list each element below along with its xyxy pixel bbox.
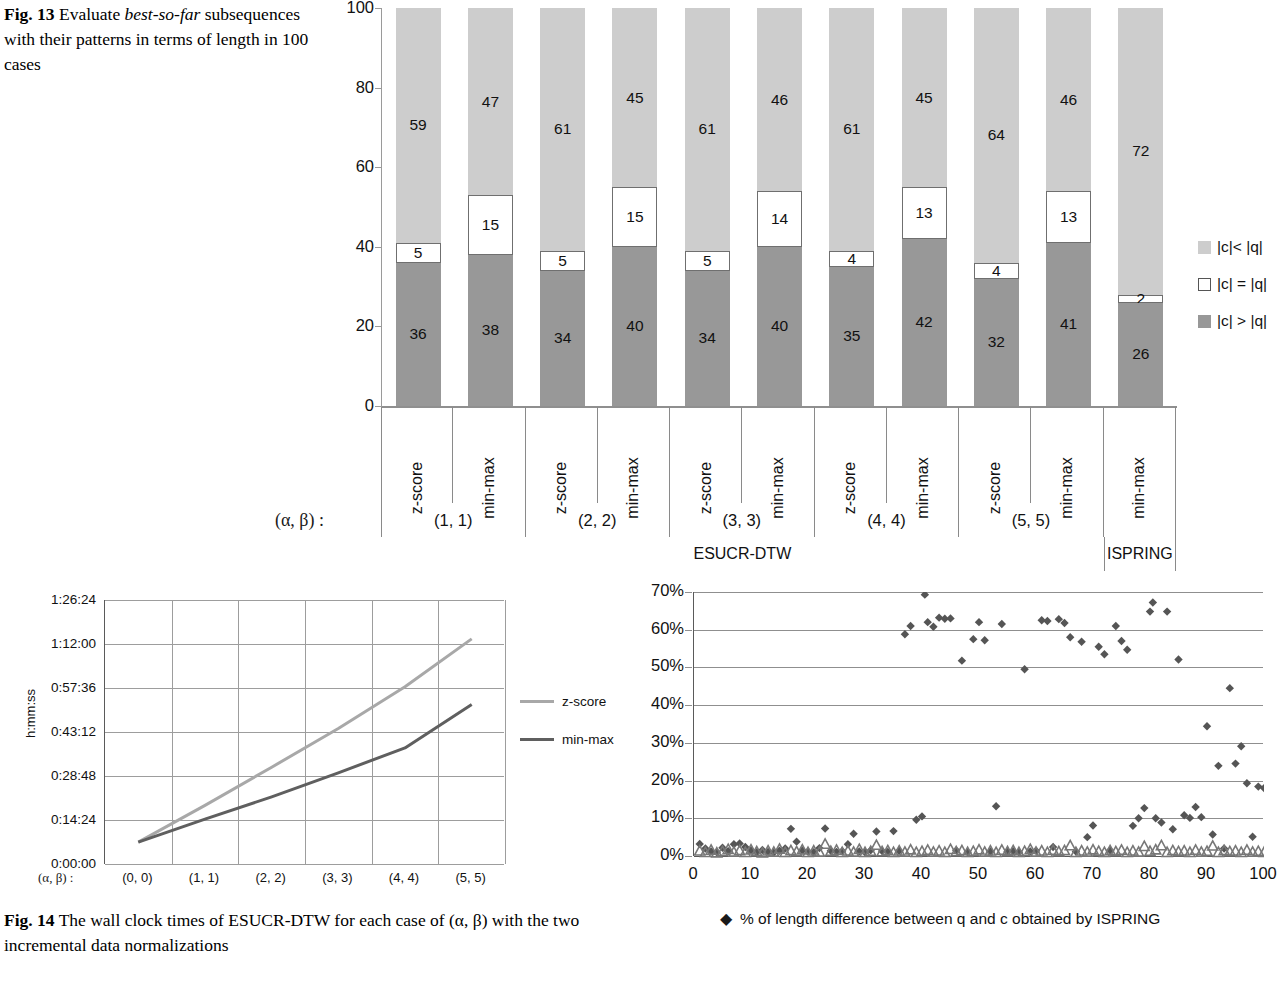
scatter-y-tick-mark <box>685 592 692 593</box>
scatter-point-diamond <box>1095 642 1103 650</box>
fig13-stacked-bar-chart: 020406080100 595364715386153445154061534… <box>330 0 1210 575</box>
stacked-bar[interactable]: 59536 <box>396 8 441 406</box>
line-series-min-max <box>138 705 471 843</box>
bar-segment-c-lt-q: 45 <box>612 8 657 187</box>
scatter-point-diamond <box>1043 617 1051 625</box>
bar-y-tick-label: 40 <box>330 240 374 252</box>
fig14-caption-text: The wall clock times of ESUCR-DTW for ea… <box>4 910 579 955</box>
bar-category-cell: min-max <box>598 407 670 503</box>
bar-group-cell: (2, 2) <box>526 503 671 537</box>
scatter-y-tick-mark <box>685 630 692 631</box>
bar-segment-c-lt-q: 61 <box>829 8 874 251</box>
bar-segment-c-gt-q: 26 <box>1118 303 1163 406</box>
scatter-y-tick-mark <box>685 856 692 857</box>
bar-category-cell: min-max <box>1031 407 1103 503</box>
stacked-bar[interactable]: 471538 <box>468 8 513 406</box>
line-legend-item-z-score[interactable]: z-score <box>520 694 630 709</box>
scatter-point-diamond <box>1203 722 1211 730</box>
bar-segment-value: 38 <box>468 321 513 339</box>
scatter-point-diamond <box>975 618 983 626</box>
bar-segment-c-gt-q: 40 <box>612 247 657 406</box>
stacked-bar[interactable]: 461440 <box>757 8 802 406</box>
bar-segment-value: 61 <box>829 120 874 138</box>
legend-item-c-gt-q[interactable]: |c| > |q| <box>1198 312 1280 330</box>
stacked-bar[interactable]: 61534 <box>540 8 585 406</box>
scatter-x-tick-label: 40 <box>896 864 946 883</box>
line-chart-y-tick-label: 0:00:00 <box>0 859 96 869</box>
line-chart-gridline <box>105 864 504 865</box>
scatter-point-diamond <box>1077 638 1085 646</box>
line-chart-x-tick-label: (3, 3) <box>307 870 367 885</box>
bar-group-row: (1, 1)(2, 2)(3, 3)(4, 4)(5, 5) <box>381 503 1177 537</box>
stacked-bar[interactable]: 64432 <box>974 8 1019 406</box>
scatter-point-diamond <box>1243 779 1251 787</box>
legend-line-icon <box>520 700 554 703</box>
bar-segment-c-lt-q: 46 <box>1046 8 1091 191</box>
bar-segment-value: 72 <box>1118 142 1163 160</box>
bar-method-ispring: ISPRING <box>1104 537 1176 571</box>
scatter-x-tick-label: 30 <box>839 864 889 883</box>
legend-item-label: |c| = |q| <box>1217 275 1267 293</box>
scatter-point-diamond <box>1214 762 1222 770</box>
bar-segment-value: 5 <box>541 252 584 270</box>
line-chart-gridline-v <box>505 600 506 864</box>
stacked-bar[interactable]: 61435 <box>829 8 874 406</box>
scatter-point-diamond <box>981 636 989 644</box>
scatter-x-tick-label: 20 <box>782 864 832 883</box>
bar-segment-c-eq-q: 15 <box>612 187 657 247</box>
scatter-y-tick-label: 50% <box>620 659 684 671</box>
bar-category-cell: min-max <box>887 407 959 503</box>
scatter-y-tick-mark <box>685 705 692 706</box>
stacked-bar[interactable]: 451342 <box>902 8 947 406</box>
scatter-point-diamond <box>1146 607 1154 615</box>
fig13-legend: |c|< |q||c| = |q||c| > |q| <box>1198 238 1280 349</box>
scatter-point-diamond <box>1117 637 1125 645</box>
bar-plot-area: 5953647153861534451540615344614406143545… <box>382 8 1177 406</box>
line-plot-area <box>104 600 504 864</box>
bar-segment-c-eq-q: 15 <box>468 195 513 255</box>
scatter-y-tick-mark <box>685 781 692 782</box>
fig13-caption-italic: best-so-far <box>125 4 201 24</box>
bar-segment-value: 34 <box>540 329 585 347</box>
scatter-point-diamond <box>1020 665 1028 673</box>
scatter-point-diamond <box>1112 622 1120 630</box>
bar-segment-value: 34 <box>685 329 730 347</box>
scatter-x-tick-label: 90 <box>1181 864 1231 883</box>
scatter-point-diamond <box>1100 650 1108 658</box>
line-legend-item-min-max[interactable]: min-max <box>520 732 630 747</box>
bar-segment-value: 42 <box>902 313 947 331</box>
bar-segment-c-lt-q: 72 <box>1118 8 1163 295</box>
bar-segment-c-gt-q: 36 <box>396 263 441 406</box>
bar-segment-value: 59 <box>396 116 441 134</box>
stacked-bar[interactable]: 451540 <box>612 8 657 406</box>
bar-segment-value: 15 <box>469 216 512 234</box>
scatter-x-tick-label: 80 <box>1124 864 1174 883</box>
scatter-point-diamond <box>998 620 1006 628</box>
stacked-bar[interactable]: 461341 <box>1046 8 1091 406</box>
scatter-point-diamond <box>1163 607 1171 615</box>
scatter-point-diamond <box>849 830 857 838</box>
bar-segment-c-gt-q: 38 <box>468 255 513 406</box>
scatter-point-diamond <box>1066 633 1074 641</box>
scatter-y-tick-mark <box>685 743 692 744</box>
bar-segment-c-gt-q: 34 <box>685 271 730 406</box>
stacked-bar[interactable]: 61534 <box>685 8 730 406</box>
bar-method-esucr: ESUCR-DTW <box>381 537 1104 571</box>
line-chart-y-tick-label: 1:26:24 <box>0 595 96 605</box>
legend-item-c-lt-q[interactable]: |c|< |q| <box>1198 238 1280 256</box>
scatter-y-tick-label: 30% <box>620 735 684 747</box>
scatter-point-diamond <box>1149 598 1157 606</box>
fig14-scatter-chart: 0%10%20%30%40%50%60%70% 0102030405060708… <box>620 580 1280 985</box>
line-chart-y-tick-label: 0:28:48 <box>0 771 96 781</box>
legend-line-icon <box>520 738 554 741</box>
scatter-x-tick-label: 50 <box>953 864 1003 883</box>
bar-segment-value: 4 <box>975 262 1018 280</box>
legend-item-label: |c|< |q| <box>1217 238 1263 256</box>
legend-item-c-eq-q[interactable]: |c| = |q| <box>1198 275 1280 293</box>
scatter-x-tick-label: 0 <box>668 864 718 883</box>
bar-segment-value: 35 <box>829 327 874 345</box>
stacked-bar[interactable]: 72226 <box>1118 8 1163 406</box>
bar-segment-value: 5 <box>397 244 440 262</box>
bar-y-tick-mark <box>375 247 382 248</box>
bar-segment-value: 41 <box>1046 315 1091 333</box>
